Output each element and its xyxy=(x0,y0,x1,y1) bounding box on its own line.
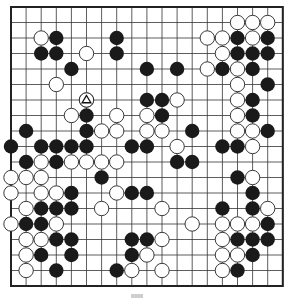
white-stone xyxy=(215,232,229,246)
white-stone xyxy=(19,248,33,262)
white-stone xyxy=(245,15,259,29)
black-stone xyxy=(230,232,244,246)
black-stone xyxy=(49,263,63,277)
black-stone xyxy=(215,201,229,215)
white-stone xyxy=(94,201,108,215)
white-stone xyxy=(4,217,18,231)
white-stone xyxy=(155,201,169,215)
white-stone xyxy=(230,108,244,122)
white-stone xyxy=(155,124,169,138)
black-stone xyxy=(155,108,169,122)
black-stone xyxy=(34,201,48,215)
black-stone xyxy=(49,139,63,153)
white-stone xyxy=(261,201,275,215)
white-stone xyxy=(230,248,244,262)
black-stone xyxy=(245,248,259,262)
black-stone xyxy=(79,139,93,153)
go-board[interactable] xyxy=(0,0,290,298)
white-stone xyxy=(19,201,33,215)
black-stone xyxy=(245,93,259,107)
white-stone xyxy=(140,124,154,138)
black-stone xyxy=(49,46,63,60)
white-stone xyxy=(245,170,259,184)
white-stone xyxy=(170,139,184,153)
black-stone xyxy=(245,108,259,122)
black-stone xyxy=(230,139,244,153)
black-stone xyxy=(19,155,33,169)
white-stone xyxy=(200,62,214,76)
white-stone xyxy=(170,93,184,107)
black-stone xyxy=(155,93,169,107)
black-stone xyxy=(79,124,93,138)
white-stone xyxy=(245,139,259,153)
black-stone xyxy=(185,155,199,169)
black-stone xyxy=(125,186,139,200)
black-stone xyxy=(245,186,259,200)
black-stone xyxy=(4,139,18,153)
black-stone xyxy=(261,217,275,231)
black-stone xyxy=(261,77,275,91)
white-stone xyxy=(140,248,154,262)
black-stone xyxy=(140,232,154,246)
black-stone xyxy=(64,186,78,200)
black-stone xyxy=(19,124,33,138)
black-stone xyxy=(230,263,244,277)
black-stone xyxy=(140,139,154,153)
black-stone xyxy=(49,201,63,215)
white-stone xyxy=(49,186,63,200)
white-stone xyxy=(64,155,78,169)
black-stone xyxy=(245,201,259,215)
black-stone xyxy=(64,62,78,76)
white-stone xyxy=(230,15,244,29)
black-stone xyxy=(230,170,244,184)
white-stone xyxy=(140,108,154,122)
white-stone xyxy=(19,170,33,184)
white-stone xyxy=(215,31,229,45)
white-stone xyxy=(215,263,229,277)
white-stone xyxy=(79,155,93,169)
black-stone xyxy=(140,93,154,107)
white-stone xyxy=(155,232,169,246)
black-stone xyxy=(215,139,229,153)
caption-marker xyxy=(131,294,143,298)
white-stone xyxy=(94,155,108,169)
black-stone xyxy=(170,155,184,169)
white-stone xyxy=(110,108,124,122)
black-stone xyxy=(215,62,229,76)
black-stone xyxy=(261,232,275,246)
black-stone xyxy=(49,232,63,246)
black-stone xyxy=(64,201,78,215)
white-stone xyxy=(215,46,229,60)
white-stone xyxy=(4,170,18,184)
white-stone xyxy=(110,186,124,200)
white-stone xyxy=(19,263,33,277)
black-stone xyxy=(49,31,63,45)
black-stone xyxy=(110,46,124,60)
black-stone xyxy=(34,248,48,262)
white-stone xyxy=(34,31,48,45)
white-stone xyxy=(34,186,48,200)
black-stone xyxy=(245,46,259,60)
white-stone xyxy=(155,263,169,277)
black-stone xyxy=(261,46,275,60)
white-stone xyxy=(230,217,244,231)
black-stone xyxy=(125,232,139,246)
white-stone xyxy=(125,263,139,277)
white-stone xyxy=(215,217,229,231)
white-stone xyxy=(94,124,108,138)
black-stone xyxy=(261,31,275,45)
white-stone xyxy=(34,155,48,169)
black-stone xyxy=(140,186,154,200)
black-stone xyxy=(261,124,275,138)
white-stone xyxy=(110,124,124,138)
white-stone xyxy=(215,248,229,262)
white-stone xyxy=(79,46,93,60)
black-stone xyxy=(230,46,244,60)
black-stone xyxy=(19,217,33,231)
white-stone xyxy=(64,108,78,122)
black-stone xyxy=(110,263,124,277)
white-stone xyxy=(245,31,259,45)
black-stone xyxy=(64,232,78,246)
black-stone xyxy=(49,155,63,169)
white-stone xyxy=(19,232,33,246)
